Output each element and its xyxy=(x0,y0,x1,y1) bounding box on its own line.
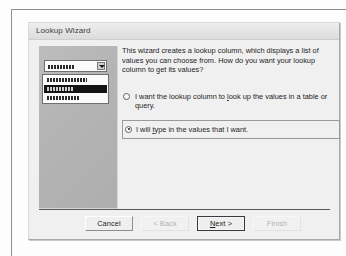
scanned-page: Lookup Wizard This wizard creates a look… xyxy=(0,0,346,256)
radio-option-type-values[interactable]: I will type in the values that I want. xyxy=(122,120,340,140)
wizard-button-bar: Cancel < Back Next > Finish xyxy=(29,216,339,236)
radio-icon[interactable] xyxy=(123,93,130,100)
page-border-top xyxy=(11,9,346,10)
cancel-button[interactable]: Cancel xyxy=(85,216,133,231)
back-button: < Back xyxy=(141,216,189,231)
radio-option-lookup-from-table[interactable]: I want the lookup column to look up the … xyxy=(122,92,331,111)
list-item xyxy=(44,76,107,84)
mock-combobox xyxy=(44,60,107,72)
finish-button: Finish xyxy=(253,216,301,231)
radio-option-label: I want the lookup column to look up the … xyxy=(135,92,327,111)
wizard-content: This wizard creates a lookup column, whi… xyxy=(122,46,329,139)
lookup-wizard-dialog: Lookup Wizard This wizard creates a look… xyxy=(28,22,340,240)
radio-option-label: I will type in the values that I want. xyxy=(136,125,248,134)
radio-icon[interactable] xyxy=(125,126,132,133)
wizard-intro-text: This wizard creates a lookup column, whi… xyxy=(122,46,326,75)
next-button[interactable]: Next > xyxy=(197,216,245,231)
list-item xyxy=(44,85,107,93)
mock-dropdown-list xyxy=(42,74,109,104)
mock-combobox-text xyxy=(48,65,74,69)
wizard-illustration-panel xyxy=(39,46,118,209)
chevron-down-icon xyxy=(97,62,105,70)
list-item xyxy=(44,94,107,102)
dialog-titlebar: Lookup Wizard xyxy=(29,23,339,40)
dialog-title: Lookup Wizard xyxy=(36,26,91,35)
page-border-left xyxy=(11,9,12,256)
footer-separator xyxy=(39,209,330,210)
